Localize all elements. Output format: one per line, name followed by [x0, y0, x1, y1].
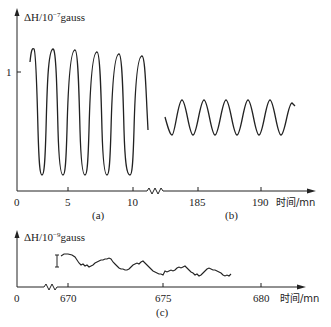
y-axis-arrow-icon [15, 230, 20, 238]
series-c-line [61, 254, 231, 276]
scale-bar-icon [55, 255, 59, 267]
y-axis-arrow-icon [15, 8, 20, 16]
y-axis-label: ΔH/10−7gauss [24, 11, 85, 23]
x-axis-arrow-icon [297, 285, 306, 290]
panel-label-c: (c) [156, 306, 169, 319]
x-tick-label: 185 [189, 196, 206, 208]
axis-break-icon [147, 188, 163, 194]
chart-ab: 1 ΔH/10−7gauss 0 5 10 185 190 时间/mn (a) … [6, 8, 316, 222]
panel-label-a: (a) [92, 209, 105, 222]
axis-break-icon [44, 284, 57, 290]
x-tick-label: 0 [14, 196, 20, 208]
x-tick-label: 10 [127, 196, 139, 208]
series-b-line [165, 100, 295, 135]
x-tick-label: 675 [155, 292, 172, 304]
panel-label-b: (b) [225, 209, 238, 222]
y-tick-label: 1 [6, 66, 12, 78]
figure: 1 ΔH/10−7gauss 0 5 10 185 190 时间/mn (a) … [0, 0, 331, 327]
series-a-line [30, 49, 148, 175]
y-axis-label: ΔH/10−9gauss [24, 231, 85, 243]
x-axis-label: 时间/mn [280, 292, 319, 304]
x-tick-label: 670 [60, 292, 77, 304]
x-axis-label: 时间/mn [276, 196, 315, 208]
x-tick-label: 190 [252, 196, 269, 208]
x-tick-label: 680 [253, 292, 270, 304]
x-tick-label: 0 [14, 292, 20, 304]
x-axis-arrow-icon [307, 189, 316, 194]
chart-c: ΔH/10−9gauss 0 670 675 680 时间/mn (c) [14, 230, 319, 319]
x-tick-label: 5 [65, 196, 71, 208]
